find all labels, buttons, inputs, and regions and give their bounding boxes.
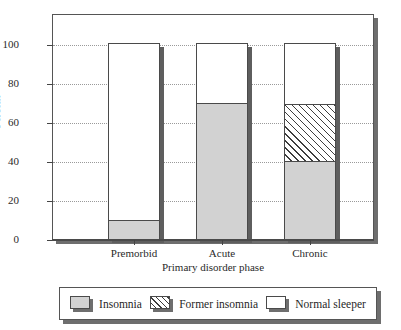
x-axis-line [52,239,374,241]
bar-stack-premorbid[interactable] [108,43,160,239]
segment-chronic-former-insomnia[interactable] [285,104,335,161]
legend-swatch-former-insomnia-wrap [150,296,173,312]
legend-box: Insomnia Former insomnia Normal sleeper [59,287,377,320]
segment-chronic-insomnia[interactable] [285,161,335,240]
segment-premorbid-insomnia[interactable] [109,220,159,240]
legend-label-insomnia: Insomnia [99,298,142,310]
ytick-label-60: 60 [0,117,19,128]
xtick-mark-acute [222,240,223,245]
segment-premorbid-normal-sleeper[interactable] [109,44,159,220]
xtick-label-premorbid: Premorbid [89,247,179,259]
bar-stack-chronic[interactable] [284,43,336,239]
ytick-mark-80 [47,84,53,85]
bar-stack-acute[interactable] [196,43,248,239]
xtick-label-acute: Acute [177,247,267,259]
ytick-label-40: 40 [0,156,19,167]
plot-area [52,14,374,240]
bar-group-acute [196,43,252,239]
stacked-bar-chart-figure: 100 80 60 40 20 0 Percent Premorbid Acut… [0,0,401,330]
segment-acute-insomnia[interactable] [197,103,247,240]
segment-acute-normal-sleeper[interactable] [197,44,247,103]
legend-label-normal-sleeper: Normal sleeper [295,298,366,310]
bar-group-premorbid [108,43,164,239]
ytick-mark-100 [47,45,53,46]
xtick-mark-chronic [310,240,311,245]
legend-swatch-insomnia-wrap [70,296,93,312]
white-swatch-icon [266,296,286,309]
hatched-swatch-icon [150,296,170,309]
legend-swatch-normal-sleeper-wrap [266,296,289,312]
ytick-label-100: 100 [0,39,19,50]
xtick-mark-premorbid [134,240,135,245]
legend-label-former-insomnia: Former insomnia [179,298,258,310]
ytick-label-20: 20 [0,195,19,206]
segment-chronic-normal-sleeper[interactable] [285,44,335,104]
solid-gray-swatch-icon [70,296,90,309]
bar-group-chronic [284,43,340,239]
ytick-mark-20 [47,201,53,202]
legend-item-normal-sleeper[interactable]: Normal sleeper [266,296,366,312]
xtick-label-chronic: Chronic [265,247,355,259]
ytick-mark-40 [47,162,53,163]
ytick-mark-60 [47,123,53,124]
legend-item-former-insomnia[interactable]: Former insomnia [150,296,258,312]
ytick-label-80: 80 [0,78,19,89]
legend-item-insomnia[interactable]: Insomnia [70,296,142,312]
y-axis-title: Percent [0,96,2,129]
x-axis-title: Primary disorder phase [52,261,374,273]
ytick-label-0: 0 [0,234,19,245]
